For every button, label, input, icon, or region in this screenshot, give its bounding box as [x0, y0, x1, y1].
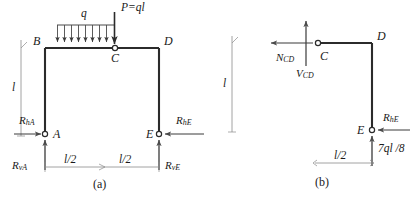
dim-span-right-label-a: l/2 — [119, 154, 131, 166]
support-a — [42, 131, 47, 136]
force-vcd-subscript: CD — [303, 71, 314, 80]
reaction-ve-subscript: vE — [172, 163, 180, 172]
support-e-b — [369, 127, 374, 132]
dim-height-tick-top-b — [232, 37, 238, 43]
node-label-c: C — [111, 52, 119, 64]
reaction-va-symbol: R — [12, 159, 19, 171]
node-label-b: B — [33, 35, 40, 47]
figure-canvas: B C D A E q P=ql l RhA RhE RvA RvE l/2 l… — [0, 0, 412, 197]
dim-span-label-b: l/2 — [334, 150, 346, 162]
hinge-c-b — [315, 40, 320, 45]
hinge-c — [112, 45, 117, 50]
panel-a-geometry — [14, 12, 204, 172]
reaction-va-subscript: vA — [19, 163, 27, 172]
node-label-e-b: E — [357, 124, 364, 136]
node-label-e: E — [146, 128, 153, 140]
reaction-he-symbol-b: R — [383, 111, 390, 123]
force-vcd-label: VCD — [296, 68, 314, 80]
dim-height-label-b: l — [223, 78, 226, 90]
force-ncd-label: NCD — [276, 52, 294, 64]
reaction-he-symbol: R — [176, 114, 183, 126]
reaction-he-subscript-b: hE — [390, 115, 399, 124]
point-load-label: P=ql — [121, 2, 145, 14]
panel-caption-b: (b) — [315, 175, 329, 190]
panel-caption-a: (a) — [93, 177, 106, 192]
reaction-ve-label-b: 7ql /8 — [378, 143, 405, 155]
support-e — [156, 131, 161, 136]
dim-height-label-a: l — [12, 82, 15, 94]
reaction-ve-symbol: R — [165, 159, 172, 171]
reaction-ha-subscript: hA — [26, 118, 35, 127]
force-ncd-subscript: CD — [283, 55, 294, 64]
force-vcd-symbol: V — [296, 67, 303, 79]
reaction-he-label-b: RhE — [383, 112, 399, 124]
dim-height-tick-top-a — [21, 42, 27, 48]
reaction-he-label: RhE — [176, 115, 192, 127]
dim-span-left-label-a: l/2 — [64, 154, 76, 166]
node-label-d-b: D — [377, 30, 386, 42]
node-label-c-b: C — [320, 50, 328, 62]
reaction-ha-label: RhA — [19, 115, 35, 127]
reaction-ve-label: RvE — [165, 160, 180, 172]
reaction-he-subscript: hE — [183, 118, 192, 127]
distributed-load-label: q — [81, 8, 87, 20]
reaction-ha-symbol: R — [19, 114, 26, 126]
node-label-d: D — [164, 35, 173, 47]
node-label-a: A — [53, 128, 60, 140]
reaction-va-label: RvA — [12, 160, 27, 172]
distributed-load-arrows — [58, 25, 107, 42]
figure-svg — [0, 0, 412, 197]
